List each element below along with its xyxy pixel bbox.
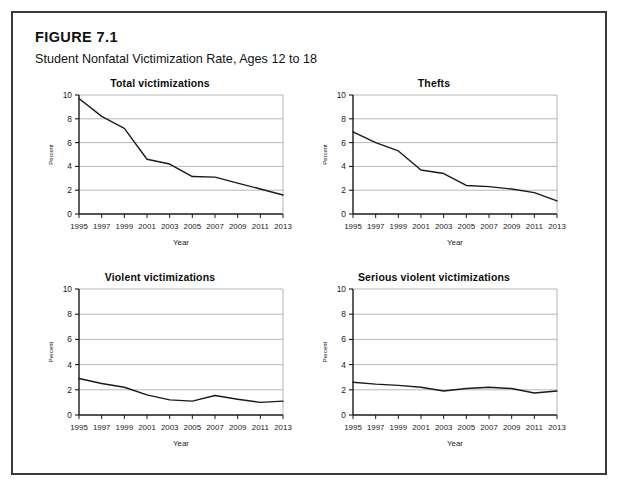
y-tick-label: 2 [341,185,346,195]
x-tick-label: 1999 [116,222,134,231]
x-tick-label: 2013 [548,222,566,231]
chart-title: Violent victimizations [27,271,293,283]
x-tick-label: 1995 [70,222,88,231]
plot-area: 0246810199519971999200120032005200720092… [27,285,293,463]
x-tick-label: 2013 [548,423,566,432]
chart-svg-serious-violent-victimizations: 0246810199519971999200120032005200720092… [301,285,567,463]
y-tick-label: 0 [67,410,72,420]
x-tick-label: 1997 [367,423,385,432]
x-tick-label: 2005 [458,423,476,432]
y-tick-label: 8 [341,309,346,319]
x-tick-label: 2007 [206,423,224,432]
x-axis-label: Year [173,439,189,448]
chart-svg-total-victimizations: 0246810199519971999200120032005200720092… [27,91,293,262]
chart-panel-total-victimizations: Total victimizations 0246810199519971999… [27,77,293,262]
y-tick-label: 0 [341,209,346,219]
x-tick-label: 2003 [435,423,453,432]
chart-panel-thefts: Thefts 024681019951997199920012003200520… [301,77,567,262]
x-tick-label: 2009 [229,423,247,432]
x-tick-label: 1999 [390,222,408,231]
x-tick-label: 1995 [344,423,362,432]
y-tick-label: 6 [341,334,346,344]
y-tick-label: 8 [67,114,72,124]
x-tick-label: 2009 [229,222,247,231]
data-series-line [79,99,283,195]
y-tick-label: 4 [67,360,72,370]
y-tick-label: 2 [67,385,72,395]
x-tick-label: 2001 [412,222,430,231]
y-tick-label: 6 [341,138,346,148]
x-tick-label: 2003 [161,423,179,432]
figure-border: FIGURE 7.1 Student Nonfatal Victimizatio… [11,11,607,475]
chart-svg-thefts: 0246810199519971999200120032005200720092… [301,91,567,262]
y-tick-label: 10 [337,285,347,294]
x-tick-label: 2009 [503,423,521,432]
x-tick-label: 1999 [390,423,408,432]
x-tick-label: 1997 [93,222,111,231]
x-axis-label: Year [447,439,463,448]
y-tick-label: 0 [67,209,72,219]
chart-svg-violent-victimizations: 0246810199519971999200120032005200720092… [27,285,293,463]
x-tick-label: 2007 [480,423,498,432]
x-tick-label: 2003 [435,222,453,231]
y-tick-label: 4 [341,161,346,171]
figure-subtitle: Student Nonfatal Victimization Rate, Age… [35,49,575,69]
chart-title: Total victimizations [27,77,293,89]
y-tick-label: 2 [67,185,72,195]
y-tick-label: 8 [67,309,72,319]
x-tick-label: 2001 [412,423,430,432]
y-tick-label: 2 [341,385,346,395]
chart-panel-serious-violent-victimizations: Serious violent victimizations 024681019… [301,271,567,463]
x-axis-label: Year [173,238,189,247]
x-tick-label: 1995 [70,423,88,432]
x-tick-label: 2013 [274,423,292,432]
chart-title: Serious violent victimizations [301,271,567,283]
x-tick-label: 2007 [206,222,224,231]
plot-area: 0246810199519971999200120032005200720092… [301,285,567,463]
x-tick-label: 2011 [526,423,543,432]
x-tick-label: 2011 [252,423,269,432]
y-tick-label: 6 [67,138,72,148]
y-axis-label: Percent [322,341,328,362]
x-tick-label: 2003 [161,222,179,231]
plot-area: 0246810199519971999200120032005200720092… [301,91,567,262]
y-tick-label: 10 [337,91,347,100]
x-axis-label: Year [447,238,463,247]
x-tick-label: 2005 [458,222,476,231]
y-tick-label: 8 [341,114,346,124]
x-tick-label: 2001 [138,222,156,231]
chart-title: Thefts [301,77,567,89]
data-series-line [353,382,557,393]
y-axis-label: Percent [48,144,54,165]
x-tick-label: 2009 [503,222,521,231]
y-tick-label: 0 [341,410,346,420]
x-tick-label: 2011 [252,222,269,231]
y-axis-label: Percent [48,341,54,362]
chart-panel-violent-victimizations: Violent victimizations 02468101995199719… [27,271,293,463]
x-tick-label: 1997 [367,222,385,231]
y-tick-label: 4 [67,161,72,171]
y-tick-label: 10 [63,91,73,100]
x-tick-label: 2013 [274,222,292,231]
x-tick-label: 2007 [480,222,498,231]
figure-label: FIGURE 7.1 [35,27,575,47]
x-tick-label: 1995 [344,222,362,231]
x-tick-label: 1997 [93,423,111,432]
x-tick-label: 2005 [184,222,202,231]
figure-header: FIGURE 7.1 Student Nonfatal Victimizatio… [35,27,575,69]
x-tick-label: 2005 [184,423,202,432]
y-tick-label: 4 [341,360,346,370]
x-tick-label: 1999 [116,423,134,432]
y-tick-label: 6 [67,334,72,344]
y-tick-label: 10 [63,285,73,294]
plot-area: 0246810199519971999200120032005200720092… [27,91,293,262]
y-axis-label: Percent [322,144,328,165]
x-tick-label: 2011 [526,222,543,231]
x-tick-label: 2001 [138,423,156,432]
data-series-line [79,378,283,402]
